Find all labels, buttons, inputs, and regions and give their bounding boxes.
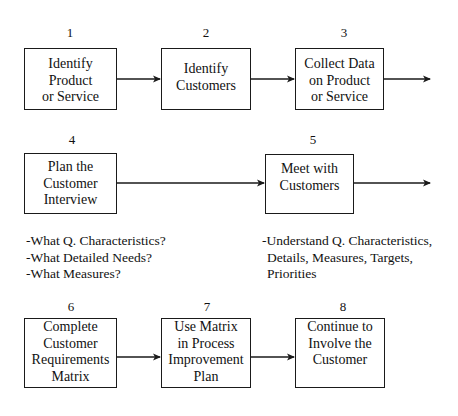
step-1-label-line-1: Identify (48, 56, 92, 73)
step-4-label-line-1: Plan the (48, 159, 94, 176)
step-4-note-2: -What Detailed Needs? (26, 250, 166, 267)
step-5-number: 5 (303, 133, 323, 147)
step-4-notes: -What Q. Characteristics? -What Detailed… (26, 233, 166, 283)
step-6-number: 6 (61, 300, 81, 314)
step-8-label-line-3: Customer (313, 352, 367, 369)
step-8-number: 8 (333, 300, 353, 314)
step-6-label-line-4: Matrix (51, 369, 89, 386)
step-8-box: Continue to Involve the Customer (295, 318, 385, 388)
step-2-label-line-1: Identify (184, 61, 228, 78)
step-7-label-line-3: Improvement (168, 352, 243, 369)
step-6-box: Complete Customer Requirements Matrix (24, 318, 117, 388)
step-5-box: Meet with Customers (265, 154, 354, 214)
step-3-label-line-1: Collect Data (304, 56, 374, 73)
step-6-label-line-3: Requirements (32, 352, 110, 369)
step-4-number: 4 (62, 133, 82, 147)
step-3-box: Collect Data on Product or Service (295, 48, 384, 110)
step-2-box: Identify Customers (161, 48, 251, 110)
step-7-number: 7 (197, 300, 217, 314)
step-3-label-line-3: or Service (311, 89, 368, 106)
step-4-note-1: -What Q. Characteristics? (26, 233, 166, 250)
step-4-box: Plan the Customer Interview (24, 153, 117, 214)
step-7-box: Use Matrix in Process Improvement Plan (161, 318, 251, 388)
step-6-label-line-1: Complete (43, 319, 97, 336)
step-5-note-2: Details, Measures, Targets, (262, 250, 432, 267)
step-8-label-line-2: Involve the (308, 336, 371, 353)
step-5-notes: -Understand Q. Characteristics, Details,… (262, 233, 432, 283)
step-5-label-line-1: Meet with (281, 161, 338, 178)
step-2-label-line-2: Customers (176, 78, 236, 95)
step-7-label-line-1: Use Matrix (174, 319, 237, 336)
step-5-label-line-2: Customers (280, 178, 340, 195)
step-3-label-line-2: on Product (309, 73, 370, 90)
step-7-label-line-4: Plan (194, 369, 219, 386)
step-4-label-line-2: Customer (43, 176, 97, 193)
step-4-note-3: -What Measures? (26, 266, 166, 283)
step-2-number: 2 (196, 26, 216, 40)
step-1-label-line-3: or Service (42, 89, 99, 106)
step-5-note-3: Priorities (262, 266, 432, 283)
step-3-number: 3 (334, 26, 354, 40)
step-4-label-line-3: Interview (44, 192, 98, 209)
step-1-box: Identify Product or Service (24, 48, 117, 110)
step-1-number: 1 (60, 26, 80, 40)
step-1-label-line-2: Product (49, 73, 93, 90)
step-7-label-line-2: in Process (177, 336, 234, 353)
step-6-label-line-2: Customer (43, 336, 97, 353)
step-8-label-line-1: Continue to (307, 319, 373, 336)
step-5-note-1: -Understand Q. Characteristics, (262, 233, 432, 250)
